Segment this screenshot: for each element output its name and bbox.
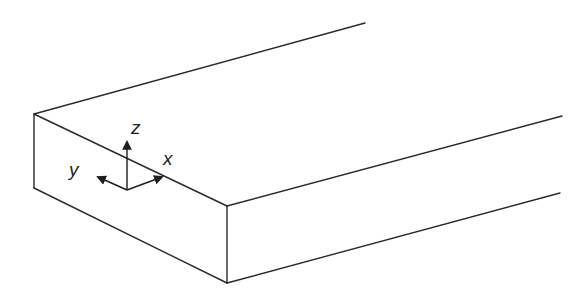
z-axis-label: z [131, 118, 141, 137]
slab-diagram [0, 0, 588, 302]
x-axis-label: x [163, 149, 173, 168]
y-axis-label: y [69, 160, 79, 179]
bottom-front-edge [34, 188, 227, 283]
bottom-right-edge [227, 193, 560, 283]
top-back-edge [34, 23, 365, 114]
slab-outline [34, 23, 562, 283]
y-axis-arrow [98, 177, 127, 190]
top-right-edge [227, 116, 562, 206]
x-axis-arrow [127, 177, 162, 190]
